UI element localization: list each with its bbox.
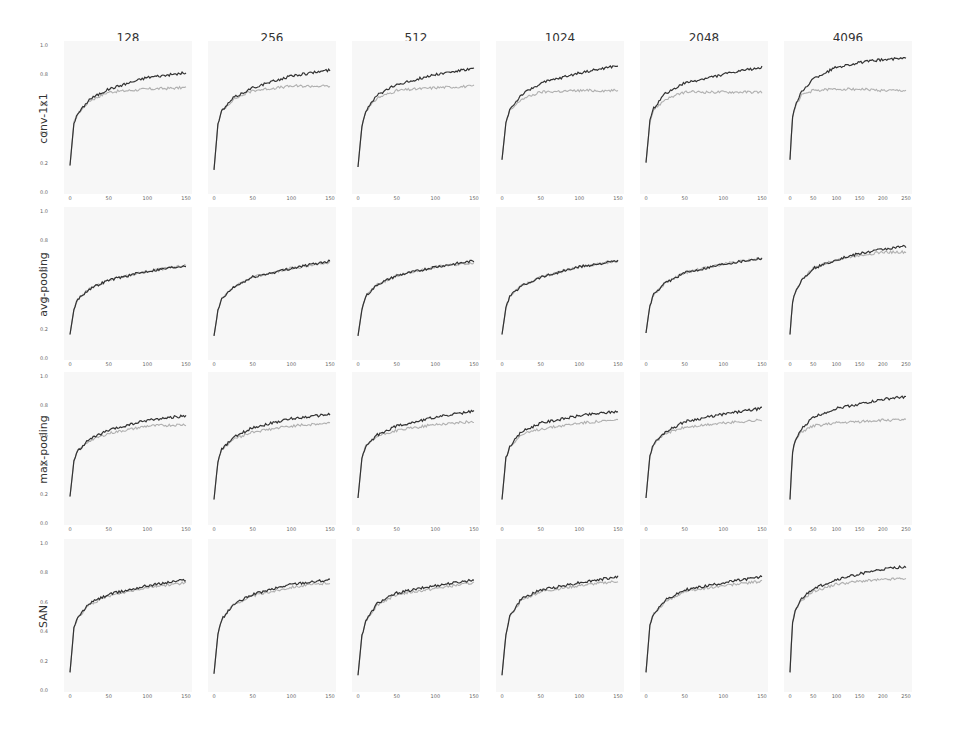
y-tick-label: 0.6	[40, 267, 48, 273]
panel-conv-1x1-512: 050100150	[352, 41, 480, 201]
x-tick-label: 200	[878, 361, 888, 367]
x-tick-label: 0	[68, 361, 71, 367]
panel-max-pooling-1024: 050100150	[496, 372, 624, 532]
y-tick-label: 0.2	[40, 658, 48, 664]
x-tick-label: 250	[901, 693, 911, 699]
panel-background	[496, 207, 624, 360]
panel-SAN-128: 0.00.20.40.60.81.0050100150	[40, 539, 192, 699]
x-tick-label: 50	[249, 693, 255, 699]
y-tick-label: 0.0	[40, 520, 48, 526]
y-tick-label: 0.8	[40, 569, 48, 575]
panel-avg-pooling-2048: 050100150	[640, 207, 768, 367]
panel-background	[352, 372, 480, 525]
panel-max-pooling-4096: 050100150200250	[784, 372, 912, 532]
x-tick-label: 250	[901, 195, 911, 201]
x-tick-label: 150	[613, 526, 623, 532]
x-tick-label: 50	[393, 526, 399, 532]
panel-background	[640, 372, 768, 525]
panel-background	[208, 539, 336, 692]
x-tick-label: 100	[287, 693, 297, 699]
panel-avg-pooling-512: 050100150	[352, 207, 480, 367]
x-tick-label: 50	[249, 195, 255, 201]
x-tick-label: 100	[143, 693, 153, 699]
panel-SAN-4096: 050100150200250	[784, 539, 912, 699]
x-tick-label: 50	[681, 195, 687, 201]
x-tick-label: 0	[644, 195, 647, 201]
panel-conv-1x1-1024: 050100150	[496, 41, 624, 201]
x-tick-label: 150	[613, 195, 623, 201]
panel-background	[352, 41, 480, 194]
y-tick-label: 0.4	[40, 461, 48, 467]
y-tick-label: 1.0	[40, 208, 48, 214]
panel-avg-pooling-1024: 050100150	[496, 207, 624, 367]
x-tick-label: 100	[575, 526, 585, 532]
x-tick-label: 200	[878, 526, 888, 532]
x-tick-label: 0	[788, 693, 791, 699]
x-tick-label: 0	[212, 693, 215, 699]
x-tick-label: 50	[249, 526, 255, 532]
panel-background	[352, 539, 480, 692]
x-tick-label: 50	[810, 693, 816, 699]
panel-background	[784, 372, 912, 525]
panel-background	[784, 539, 912, 692]
x-tick-label: 50	[393, 693, 399, 699]
x-tick-label: 250	[901, 526, 911, 532]
y-tick-label: 0.4	[40, 628, 48, 634]
x-tick-label: 0	[644, 361, 647, 367]
panel-background	[64, 539, 192, 692]
x-tick-label: 0	[68, 693, 71, 699]
panel-conv-1x1-256: 050100150	[208, 41, 336, 201]
x-tick-label: 100	[832, 526, 842, 532]
y-tick-label: 0.2	[40, 491, 48, 497]
x-tick-label: 150	[469, 526, 479, 532]
y-tick-label: 0.8	[40, 71, 48, 77]
y-tick-label: 0.4	[40, 296, 48, 302]
x-tick-label: 0	[212, 195, 215, 201]
panel-max-pooling-2048: 050100150	[640, 372, 768, 532]
x-tick-label: 50	[537, 195, 543, 201]
x-tick-label: 100	[287, 526, 297, 532]
y-tick-label: 0.6	[40, 599, 48, 605]
panel-background	[640, 207, 768, 360]
panel-background	[496, 372, 624, 525]
x-tick-label: 100	[575, 693, 585, 699]
x-tick-label: 100	[431, 526, 441, 532]
x-tick-label: 150	[757, 361, 767, 367]
x-tick-label: 50	[810, 526, 816, 532]
x-tick-label: 150	[855, 693, 865, 699]
panel-avg-pooling-4096: 050100150200250	[784, 207, 912, 367]
x-tick-label: 150	[325, 693, 335, 699]
x-tick-label: 100	[143, 526, 153, 532]
x-tick-label: 50	[249, 361, 255, 367]
x-tick-label: 100	[287, 195, 297, 201]
y-tick-label: 0.0	[40, 355, 48, 361]
panel-max-pooling-256: 050100150	[208, 372, 336, 532]
panel-max-pooling-512: 050100150	[352, 372, 480, 532]
y-tick-label: 0.6	[40, 101, 48, 107]
x-tick-label: 50	[105, 526, 111, 532]
panel-SAN-1024: 050100150	[496, 539, 624, 699]
x-tick-label: 100	[719, 361, 729, 367]
panel-background	[352, 207, 480, 360]
x-tick-label: 100	[431, 693, 441, 699]
panel-background	[208, 207, 336, 360]
panel-background	[784, 207, 912, 360]
x-tick-label: 0	[356, 361, 359, 367]
x-tick-label: 150	[181, 526, 191, 532]
panel-SAN-2048: 050100150	[640, 539, 768, 699]
row-label: max-pooling	[37, 415, 50, 483]
x-tick-label: 0	[788, 361, 791, 367]
x-tick-label: 50	[105, 361, 111, 367]
panel-conv-1x1-128: 0.00.20.40.60.81.0050100150	[40, 41, 192, 201]
x-tick-label: 150	[181, 361, 191, 367]
panel-background	[64, 207, 192, 360]
x-tick-label: 100	[143, 361, 153, 367]
x-tick-label: 150	[855, 195, 865, 201]
x-tick-label: 200	[878, 195, 888, 201]
panel-conv-1x1-2048: 050100150	[640, 41, 768, 201]
y-tick-label: 0.2	[40, 326, 48, 332]
x-tick-label: 50	[810, 361, 816, 367]
panel-background	[496, 539, 624, 692]
y-tick-label: 0.6	[40, 432, 48, 438]
panel-background	[64, 41, 192, 194]
